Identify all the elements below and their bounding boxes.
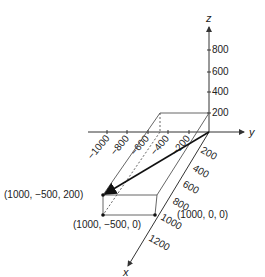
y-axis-label: y [248, 126, 256, 138]
diagram-canvas: z 200 400 600 800 y −1000 −800 −600 −400… [0, 0, 265, 277]
point-bottom-label: (1000, −500, 0) [73, 219, 141, 230]
y-tick-neg1000: −1000 [85, 132, 112, 161]
z-tick-800: 800 [212, 44, 229, 55]
x-axis-label: x [122, 266, 129, 277]
point-x [153, 213, 157, 217]
z-tick-200: 200 [212, 107, 229, 118]
z-axis-label: z [205, 12, 212, 24]
x-tick-200: 200 [199, 144, 219, 162]
x-tick-400: 400 [191, 162, 211, 180]
3d-vector-diagram: z 200 400 600 800 y −1000 −800 −600 −400… [0, 0, 265, 277]
y-tick-neg800: −800 [108, 133, 131, 158]
point-top [101, 193, 105, 197]
y-tick-neg400: −400 [148, 133, 171, 158]
point-bottom [101, 213, 105, 217]
z-tick-600: 600 [212, 66, 229, 77]
point-x-label: (1000, 0, 0) [177, 209, 228, 220]
z-tick-400: 400 [212, 86, 229, 97]
point-top-label: (1000, −500, 200) [4, 189, 83, 200]
x-tick-600: 600 [181, 178, 201, 196]
x-tick-1200: 1200 [147, 232, 172, 253]
